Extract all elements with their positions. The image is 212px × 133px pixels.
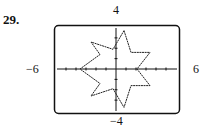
graph-window <box>0 0 212 133</box>
